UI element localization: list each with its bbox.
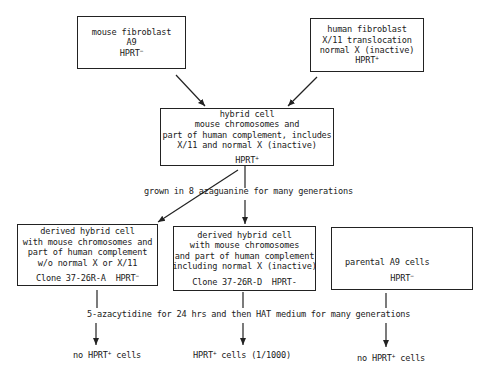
arrow-hybrid-to-clone-a — [158, 170, 238, 222]
hybrid-line-2: mouse chromosomes and — [195, 119, 299, 129]
human-fibroblast-box: human fibroblast X/11 translocation norm… — [310, 18, 424, 72]
clone-a-line-4: w/o normal X or X/11 — [38, 258, 137, 268]
clone-a-line-2: with mouse chromosomes and — [23, 237, 152, 247]
human-line-1: human fibroblast — [327, 24, 407, 34]
outcome-clone-d: HPRT+ cells (1/1000) — [193, 350, 291, 360]
clone-d-line-2: with mouse chromosomes — [190, 240, 299, 250]
human-line-3: normal X (inactive) — [320, 45, 415, 55]
outcome-clone-a: no HPRT+ cells — [73, 350, 141, 360]
human-line-2: X/11 translocation — [322, 35, 412, 45]
parental-hprt: HPRT− — [390, 273, 413, 283]
mouse-fibroblast-box: mouse fibroblast A9 HPRT− — [77, 16, 186, 69]
hybrid-hprt: HPRT+ — [235, 155, 258, 165]
arrow-human-to-hybrid — [288, 77, 317, 106]
hybrid-line-1: hybrid cell — [220, 109, 275, 119]
azaguanine-step-label: grown in 8 azaguanine for many generatio… — [144, 186, 353, 196]
azacytidine-step-label: 5-azacytidine for 24 hrs and then HAT me… — [87, 309, 410, 319]
clone-d-line-4: including normal X (inactive) — [172, 261, 316, 271]
clone-d-line-1: derived hybrid cell — [197, 230, 292, 240]
hybrid-line-4: X/11 and normal X (inactive) — [177, 140, 316, 150]
clone-d-id: Clone 37-26R-D HPRT- — [192, 277, 296, 287]
hybrid-line-3: part of human complement, includes — [162, 130, 331, 140]
clone-a-line-1: derived hybrid cell — [40, 226, 135, 236]
mouse-line-2: A9 — [127, 37, 137, 47]
parental-line-1: parental A9 cells — [345, 257, 430, 267]
clone-a-line-3: part of human complement — [28, 247, 147, 257]
clone-a-id: Clone 37-26R-A HPRT− — [36, 273, 139, 283]
clone-a-box: derived hybrid cell with mouse chromosom… — [17, 224, 158, 286]
clone-d-line-3: and part of human complement — [175, 251, 314, 261]
human-hprt: HPRT+ — [355, 55, 378, 65]
arrow-mouse-to-hybrid — [176, 75, 205, 106]
outcome-parental: no HPRT+ cells — [357, 353, 425, 363]
mouse-hprt: HPRT− — [120, 48, 143, 58]
mouse-line-1: mouse fibroblast — [92, 27, 172, 37]
parental-a9-box: parental A9 cells HPRT− — [331, 227, 473, 290]
hybrid-cell-box: hybrid cell mouse chromosomes and part o… — [160, 108, 334, 166]
clone-d-box: derived hybrid cell with mouse chromosom… — [173, 226, 316, 291]
